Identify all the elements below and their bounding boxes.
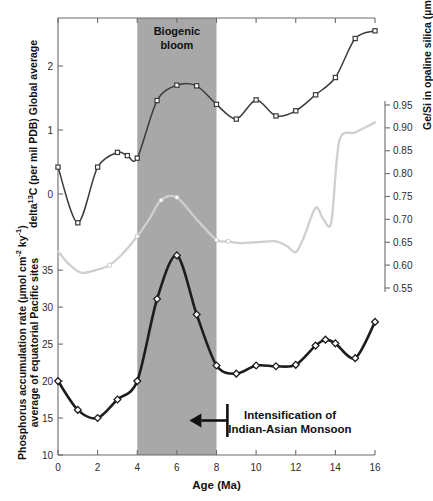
tick-label: 0.60 (393, 260, 413, 271)
biogenic-bloom-label-line2: bloom (160, 39, 193, 51)
x-axis-title: Age (Ma) (192, 479, 241, 491)
data-point-marker (155, 98, 159, 102)
data-point-marker (322, 336, 329, 343)
tick-label: 20 (42, 376, 54, 387)
tick-label: 25 (42, 339, 54, 350)
tick-label: 16 (369, 462, 381, 473)
gesi-axis-title-text: Ge/Si in opaline silica (µmol/mol) (421, 0, 433, 130)
tick-label: 14 (330, 462, 342, 473)
data-point-marker (294, 109, 298, 113)
data-point-marker (313, 93, 317, 97)
biogenic-bloom-label-line1: Biogenic (154, 25, 200, 37)
data-point-marker (195, 84, 199, 88)
tick-label: 0.80 (393, 168, 413, 179)
data-point-marker (226, 239, 230, 243)
data-point-marker (214, 102, 218, 106)
tick-label: 30 (42, 302, 54, 313)
data-point-marker (107, 263, 111, 267)
data-point-marker (233, 370, 240, 377)
delta13c-superscript: 13 (25, 195, 34, 203)
tick-label: 6 (174, 462, 180, 473)
gesi-axis-title: Ge/Si in opaline silica (µmol/mol) (421, 0, 433, 130)
data-point-marker (353, 36, 357, 40)
data-point-marker (56, 165, 60, 169)
phos-sup-2: -1 (14, 229, 23, 236)
data-point-marker (175, 83, 179, 87)
data-point-marker (253, 362, 260, 369)
data-point-marker (273, 363, 280, 370)
delta13c-axis-title: delta13C (per mil PDB) Global average (26, 40, 39, 228)
axis-lines (58, 18, 385, 455)
data-point-marker (96, 165, 100, 169)
data-point-marker (135, 156, 139, 160)
phos-sup-1: -2 (14, 250, 23, 257)
data-point-marker (125, 154, 129, 158)
tick-label: 15 (42, 413, 54, 424)
tick-label: 0.85 (393, 145, 413, 156)
tick-label: 35 (42, 265, 54, 276)
tick-label: 0.65 (393, 237, 413, 248)
data-point-marker (175, 195, 179, 199)
data-point-marker (159, 198, 163, 202)
tick-label: 0 (47, 189, 53, 200)
data-point-marker (234, 117, 238, 121)
monsoon-label-line1: Intensification of (244, 409, 336, 421)
tick-label: 0.55 (393, 283, 413, 294)
data-point-marker (274, 114, 278, 118)
tick-label: 12 (290, 462, 302, 473)
data-point-marker (254, 98, 258, 102)
tick-label: 0 (55, 462, 61, 473)
tick-label: 10 (42, 450, 54, 461)
data-point-marker (333, 75, 337, 79)
tick-label: 0.75 (393, 191, 413, 202)
tick-label: 0.70 (393, 214, 413, 225)
data-point-marker (115, 150, 119, 154)
phosphorus-axis-title-line1: Phosphorus accumulation rate (µmol cm-2 … (14, 225, 28, 460)
data-point-marker (135, 234, 139, 238)
tick-label: 10 (251, 462, 263, 473)
tick-label: 4 (134, 462, 140, 473)
data-point-marker (373, 29, 377, 33)
tick-label: 0.95 (393, 100, 413, 111)
axis-ticks (58, 18, 390, 455)
delta13c-axis-title-text: delta13C (per mil PDB) Global average (27, 40, 39, 228)
data-point-marker (214, 238, 218, 242)
tick-label: 8 (214, 462, 220, 473)
monsoon-label-line2: Indian-Asian Monsoon (228, 423, 351, 435)
tick-label: 2 (95, 462, 101, 473)
tick-label: 1 (47, 125, 53, 136)
phosphorus-axis-title: Phosphorus accumulation rate (µmol cm-2 … (14, 225, 41, 460)
tick-label: 0.90 (393, 122, 413, 133)
tick-label: 2 (47, 61, 53, 72)
data-point-marker (76, 221, 80, 225)
phosphorus-axis-title-line2: average of equatorial Pacific sites (28, 225, 41, 460)
